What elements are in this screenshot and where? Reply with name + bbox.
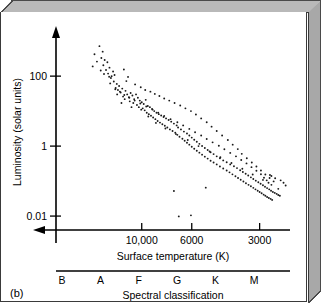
data-point [149,106,151,108]
data-point [211,126,213,128]
data-point [252,173,254,175]
data-point [245,182,247,184]
data-point [107,73,109,75]
data-point [201,154,203,156]
data-point [156,112,158,114]
data-point [144,109,146,111]
data-point [218,145,220,147]
axis-group [33,26,290,243]
data-point [233,165,235,167]
data-point [113,81,115,83]
data-point [188,135,190,137]
data-point [247,175,249,177]
data-point [195,114,197,116]
data-point [219,156,221,158]
data-point [235,155,237,157]
data-point [235,175,237,177]
data-point [255,166,257,168]
data-point [104,59,106,61]
data-point [268,182,270,184]
data-point [188,144,190,146]
data-point [127,76,129,78]
x-tick-label-2: 3000 [248,234,272,246]
data-point [269,177,271,179]
data-point [283,182,285,184]
data-point [153,110,155,112]
data-point [277,188,279,190]
data-point [146,112,148,114]
data-point [226,170,228,172]
spectral-class-F: F [136,274,142,286]
frame-outer-edge-top [11,0,321,1]
data-point [223,148,225,150]
spectral-class-M: M [250,274,259,286]
data-point [216,163,218,165]
spectral-class-K: K [212,274,219,286]
data-point [240,159,242,161]
data-point [279,195,281,197]
data-point [102,64,104,66]
data-point [174,102,176,104]
data-point [209,151,211,153]
data-point [130,92,132,94]
data-point [222,159,224,161]
data-point [252,187,254,189]
data-point [257,190,259,192]
data-point [219,166,221,168]
data-point [140,86,142,88]
data-point [169,128,171,130]
data-point [137,97,139,99]
data-point [170,121,172,123]
data-point [266,187,268,189]
data-point [270,175,272,177]
data-point [160,115,162,117]
data-point [109,82,111,84]
data-point [190,110,192,112]
data-point [191,146,193,148]
data-point [205,187,207,189]
data-point [262,184,264,186]
data-point [181,138,183,140]
data-point [255,188,257,190]
data-point [166,127,168,129]
data-point [110,77,112,79]
data-point [182,124,184,126]
data-point [270,184,272,186]
data-point [251,162,253,164]
data-point [154,118,156,120]
figure-panel: 10010.01 10,00060003000 Luminosity (sola… [0,0,321,303]
spectral-class-labels: BAFGKM [58,274,258,286]
data-point [196,141,198,143]
data-point [184,140,186,142]
data-point [99,45,101,47]
data-point [109,67,111,69]
y-axis-title: Luminosity (solar units) [11,78,23,186]
data-point [200,135,202,137]
data-point [280,179,282,181]
x-tick-label-1: 6000 [180,234,204,246]
data-point [92,65,94,67]
data-point [111,75,113,77]
data-point [273,180,275,182]
data-point [227,139,229,141]
data-point [123,69,125,71]
data-point [105,69,107,71]
data-point [237,148,239,150]
data-point [149,91,151,93]
data-point [213,153,215,155]
data-point [264,173,266,175]
data-point [152,109,154,111]
data-point [262,179,264,181]
frame-fold-right [308,12,309,303]
data-point [116,93,118,95]
data-point [157,112,159,114]
data-point [246,162,248,164]
data-point [206,138,208,140]
x-axis-title: Surface temperature (K) [117,250,230,262]
data-point [114,88,116,90]
data-point [94,53,96,55]
data-point [139,100,141,102]
data-point [163,98,165,100]
data-point [272,191,274,193]
data-point [179,136,181,138]
